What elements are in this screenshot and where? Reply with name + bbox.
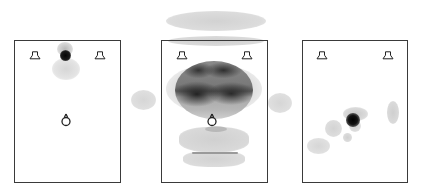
intensity-blob [166,11,266,31]
listener-head-icon [206,113,218,127]
intensity-blob [268,93,292,113]
intensity-blob [343,133,352,142]
intensity-blob [307,138,330,154]
intensity-hotspot [346,113,360,127]
intensity-hotspot [60,50,71,61]
loudspeaker-icon [176,51,188,60]
intensity-blob [387,101,399,124]
intensity-blob [52,58,80,80]
loudspeaker-icon [316,51,328,60]
intensity-blob [325,120,342,137]
loudspeaker-icon [29,51,41,60]
loudspeaker-icon [382,51,394,60]
intensity-sphere [175,61,253,119]
listener-head-icon [60,113,72,127]
loudspeaker-icon [94,51,106,60]
intensity-blob [131,90,156,110]
intensity-line [192,152,238,154]
loudspeaker-icon [241,51,253,60]
